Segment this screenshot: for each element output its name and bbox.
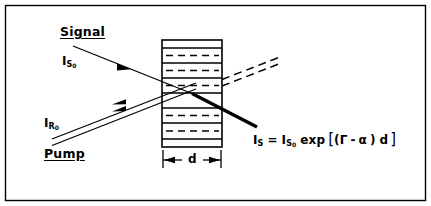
signal-beam-arrowhead	[117, 64, 131, 71]
dim-arrow-left	[164, 157, 175, 163]
dim-arrow-right	[209, 157, 220, 163]
equation-bracket-close: ]	[390, 130, 396, 148]
thickness-label: d	[188, 153, 197, 165]
signal-input-intensity-symbol: IS0	[62, 55, 76, 69]
equation-lhs-sub-S: S	[258, 139, 264, 148]
equation-rhs-sub-zero: 0	[292, 141, 296, 148]
gain-equation: IS=IS0exp[(Γ-α)d]	[253, 132, 396, 148]
equation-paren-close: )	[370, 133, 376, 147]
pump-input-sub-zero: 0	[55, 124, 59, 131]
signal-input-sub-zero: 0	[72, 62, 76, 69]
equation-thickness-d: d	[379, 133, 388, 147]
equation-equals: =	[267, 133, 277, 147]
pump-input-intensity-symbol: IR0	[44, 117, 59, 131]
equation-exp: exp	[300, 133, 325, 147]
pump-beam-arrowhead-lower	[112, 106, 126, 111]
equation-gain-gamma: Γ	[340, 133, 348, 147]
equation-minus: -	[350, 133, 355, 147]
pump-beam-label: Pump	[44, 148, 85, 161]
signal-beam-label: Signal	[60, 26, 105, 39]
equation-loss-alpha: α	[359, 133, 367, 147]
pump-beam-arrowhead-upper	[112, 99, 126, 104]
pump-beam-depleted	[222, 57, 280, 86]
figure-root: Signal IS0 IR0 Pump d IS=IS0exp[(Γ-α)d]	[0, 0, 431, 206]
